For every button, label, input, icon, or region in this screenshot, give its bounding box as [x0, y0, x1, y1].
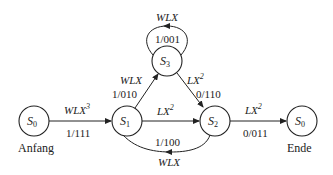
svg-text:1/100: 1/100 [155, 136, 181, 148]
start-caption: Anfang [18, 141, 54, 155]
state-s0-start: S0 [19, 106, 49, 136]
svg-text:0/011: 0/011 [243, 127, 268, 139]
transition-s3-s2: LX2 0/110 [177, 72, 221, 107]
state-s0-end: S0 [287, 106, 317, 136]
svg-text:WLX: WLX [158, 156, 181, 168]
svg-text:WLX: WLX [120, 74, 143, 86]
svg-text:WLX: WLX [156, 11, 179, 23]
svg-text:1/001: 1/001 [155, 33, 180, 45]
svg-text:LX2: LX2 [186, 72, 204, 86]
transition-s0-s1: WLX3 1/111 [49, 102, 111, 139]
state-s3: S3 [152, 46, 182, 76]
svg-text:1/010: 1/010 [112, 88, 138, 100]
svg-text:LX2: LX2 [156, 103, 174, 117]
end-caption: Ende [287, 141, 312, 155]
state-s2: S2 [200, 106, 230, 136]
transition-s2-s0-end: LX2 0/011 [230, 102, 286, 139]
state-s1: S1 [112, 106, 142, 136]
svg-text:WLX3: WLX3 [64, 102, 90, 116]
transition-s1-s2: LX2 [142, 103, 199, 121]
transition-s1-s3: WLX 1/010 [112, 74, 158, 108]
svg-text:1/111: 1/111 [66, 127, 90, 139]
svg-text:0/110: 0/110 [196, 88, 221, 100]
svg-text:LX2: LX2 [244, 102, 262, 116]
state-diagram: S0 Anfang S1 S2 S3 S0 Ende WLX3 1/111 WL… [0, 0, 333, 175]
transition-s2-s1: 1/100 WLX [123, 135, 210, 168]
